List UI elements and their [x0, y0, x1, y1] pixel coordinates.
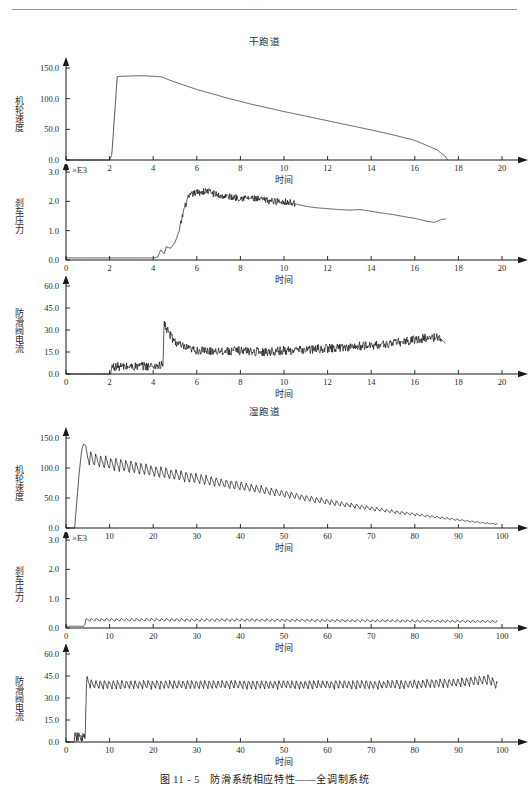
data-series-line — [66, 188, 445, 258]
x-tick-label: 30 — [193, 631, 202, 641]
chart-panel: 01020304050607080901000.015.030.045.060.… — [0, 644, 529, 770]
x-tick-label: 18 — [454, 377, 463, 387]
x-tick-label: 4 — [151, 377, 156, 387]
chart-panel: 湿跑道01020304050607080901000.050.0100.0150… — [0, 404, 529, 532]
x-axis-arrow-icon — [518, 525, 528, 531]
page-header-rule — [12, 9, 517, 10]
x-tick-label: 60 — [323, 631, 332, 641]
x-tick-label: 6 — [195, 263, 199, 273]
x-axis-arrow-icon — [518, 157, 528, 163]
x-tick-label: 50 — [280, 631, 289, 641]
x-axis-arrow-icon — [518, 739, 528, 745]
chart-title: 干跑道 — [0, 34, 529, 48]
x-tick-label: 10 — [280, 377, 289, 387]
figure-caption: 图 11 - 5 防滑系统相应特性——全调制系统 — [0, 771, 529, 786]
y-axis-label: 刹车压力 — [14, 174, 23, 258]
y-tick-label: 45.0 — [44, 671, 59, 681]
page-header-text: · · · · · — [0, 0, 529, 8]
x-tick-label: 10 — [105, 631, 114, 641]
chart-panel: 024681012141618200.01.02.03.0刹车压力×E3时间 — [0, 164, 529, 276]
y-tick-label: 3.0 — [48, 535, 59, 545]
chart-plot: 024681012141618200.015.030.045.060.0 — [0, 276, 529, 404]
figure-container: 干跑道024681012141618200.050.0100.0150.0机轮速… — [0, 16, 529, 807]
x-tick-label: 16 — [411, 263, 420, 273]
y-tick-label: 0.0 — [48, 737, 59, 747]
plot-area: 024681012141618200.01.02.03.0 — [0, 164, 529, 276]
axis-multiplier-label: ×E3 — [72, 165, 87, 175]
y-axis-label: 刹车压力 — [14, 542, 23, 626]
y-tick-label: 15.0 — [44, 347, 59, 357]
x-tick-label: 2 — [107, 377, 111, 387]
page-header: · · · · · — [0, 0, 529, 16]
x-tick-label: 0 — [64, 631, 68, 641]
x-tick-label: 90 — [454, 631, 463, 641]
y-tick-label: 60.0 — [44, 281, 59, 291]
x-tick-label: 20 — [149, 745, 158, 755]
x-axis-arrow-icon — [518, 257, 528, 263]
x-tick-label: 14 — [367, 263, 376, 273]
y-axis-arrow-icon — [63, 532, 69, 538]
x-tick-label: 60 — [323, 745, 332, 755]
x-axis-label: 时间 — [66, 387, 502, 400]
x-tick-label: 50 — [280, 745, 289, 755]
data-series-line — [66, 321, 445, 374]
x-tick-label: 14 — [367, 377, 376, 387]
y-tick-label: 3.0 — [48, 167, 59, 177]
x-tick-label: 40 — [236, 745, 245, 755]
plot-area: 024681012141618200.015.030.045.060.0 — [0, 276, 529, 394]
y-tick-label: 2.0 — [48, 196, 59, 206]
plot-area: 01020304050607080901000.01.02.03.0 — [0, 532, 529, 644]
x-tick-label: 100 — [496, 631, 509, 641]
y-tick-label: 30.0 — [44, 693, 59, 703]
y-tick-label: 15.0 — [44, 715, 59, 725]
x-tick-label: 0 — [64, 377, 68, 387]
data-series-line — [66, 618, 497, 626]
y-tick-label: 1.0 — [48, 226, 59, 236]
x-tick-label: 40 — [236, 631, 245, 641]
x-tick-label: 4 — [151, 263, 156, 273]
x-tick-label: 20 — [498, 377, 507, 387]
y-tick-label: 1.0 — [48, 594, 59, 604]
x-tick-label: 12 — [323, 263, 332, 273]
y-tick-label: 100.0 — [40, 94, 59, 104]
chart-plot: 024681012141618200.01.02.03.0 — [0, 164, 529, 290]
chart-plot: 01020304050607080901000.01.02.03.0 — [0, 532, 529, 658]
plot-area: 01020304050607080901000.015.030.045.060.… — [0, 644, 529, 770]
y-tick-label: 50.0 — [44, 124, 59, 134]
y-axis-label: 防滑阀电流 — [14, 288, 23, 372]
plot-area: 01020304050607080901000.050.0100.0150.0 — [0, 418, 529, 546]
y-axis-arrow-icon — [63, 164, 69, 170]
y-tick-label: 0.0 — [48, 369, 59, 379]
y-tick-label: 150.0 — [40, 433, 59, 443]
x-axis-label: 时间 — [66, 755, 502, 768]
x-tick-label: 90 — [454, 745, 463, 755]
y-tick-label: 100.0 — [40, 463, 59, 473]
x-tick-label: 10 — [280, 263, 289, 273]
x-tick-label: 100 — [496, 745, 509, 755]
x-tick-label: 20 — [149, 631, 158, 641]
x-tick-label: 10 — [105, 745, 114, 755]
y-tick-label: 30.0 — [44, 325, 59, 335]
chart-panel: 01020304050607080901000.01.02.03.0刹车压力×E… — [0, 532, 529, 644]
x-tick-label: 6 — [195, 377, 199, 387]
x-tick-label: 80 — [411, 631, 420, 641]
data-series-line — [66, 444, 497, 528]
data-series-line — [66, 675, 497, 742]
y-axis-arrow-icon — [63, 644, 69, 652]
x-tick-label: 8 — [238, 263, 242, 273]
x-tick-label: 0 — [64, 263, 68, 273]
data-series-line — [66, 76, 447, 160]
x-tick-label: 12 — [323, 377, 332, 387]
chart-title: 湿跑道 — [0, 404, 529, 418]
x-axis-arrow-icon — [518, 625, 528, 631]
y-tick-label: 0.0 — [48, 623, 59, 633]
x-tick-label: 8 — [238, 377, 242, 387]
y-tick-label: 50.0 — [44, 493, 59, 503]
y-tick-label: 60.0 — [44, 649, 59, 659]
chart-panel: 024681012141618200.015.030.045.060.0防滑阀电… — [0, 276, 529, 394]
x-tick-label: 16 — [411, 377, 420, 387]
y-axis-label: 机轮速度 — [14, 440, 23, 526]
y-tick-label: 2.0 — [48, 564, 59, 574]
y-tick-label: 150.0 — [40, 63, 59, 73]
x-tick-label: 70 — [367, 631, 376, 641]
